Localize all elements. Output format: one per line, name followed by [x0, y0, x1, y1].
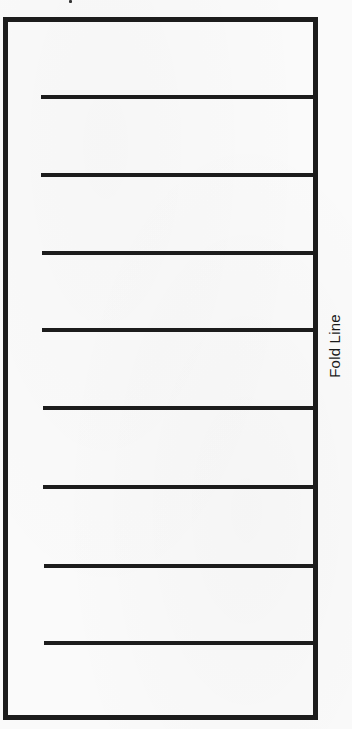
writing-line [43, 485, 313, 489]
writing-line [42, 328, 313, 332]
writing-line [41, 95, 313, 99]
writing-line [41, 173, 313, 177]
writing-line [44, 564, 313, 568]
writing-line [44, 641, 313, 645]
writing-line [43, 406, 313, 410]
fold-sheet-frame [3, 17, 318, 720]
fold-line-label: Fold Line [326, 314, 343, 378]
scan-speck [69, 0, 72, 3]
writing-line [42, 251, 313, 255]
